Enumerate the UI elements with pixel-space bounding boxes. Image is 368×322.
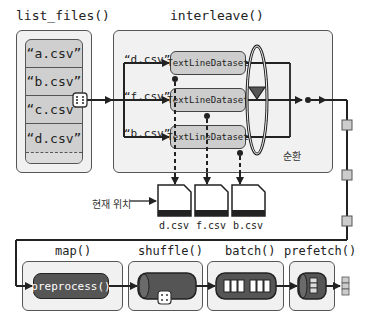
prefetch-buffer-icon — [298, 273, 326, 299]
csv-doc-icon-1 — [158, 185, 191, 216]
dice-icon — [73, 93, 87, 107]
batch-buffer-icon — [216, 273, 276, 299]
output-batch-icon — [342, 277, 349, 295]
cycle-arrow-icon — [249, 87, 265, 99]
diagram-connectors — [0, 0, 368, 322]
csv-doc-icon-2 — [195, 185, 228, 216]
shuffle-buffer-icon — [138, 273, 196, 304]
csv-doc-icon-3 — [232, 185, 265, 216]
